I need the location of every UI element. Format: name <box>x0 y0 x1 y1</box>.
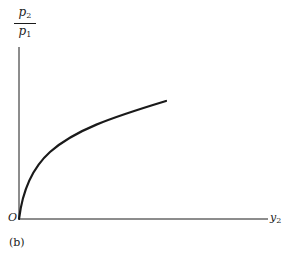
figure-caption: (b) <box>9 236 25 249</box>
curve <box>19 101 166 219</box>
origin-label: O <box>8 211 17 224</box>
y-axis-label: p2 p1 <box>14 6 36 41</box>
diagram-canvas <box>0 0 291 256</box>
x-axis-label: y2 <box>270 211 281 225</box>
